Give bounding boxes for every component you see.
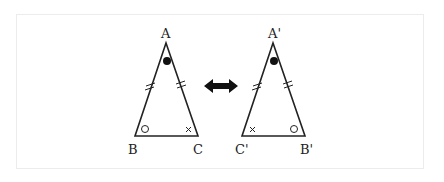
vertex-label-c-prime: C'	[235, 142, 249, 157]
vertex-label-b: B	[128, 142, 138, 157]
angle-a-filled-dot	[163, 57, 171, 65]
angle-c-cross	[186, 127, 191, 132]
vertex-label-a: A	[160, 26, 171, 41]
angle-a2-filled-dot	[270, 57, 278, 65]
vertex-label-b-prime: B'	[300, 142, 313, 157]
triangle-a2c2b2: A' C' B'	[235, 26, 313, 157]
triangle-abc: A B C	[128, 26, 203, 157]
congruent-triangles-diagram: A B C A' C' B'	[0, 0, 444, 182]
double-arrow-icon	[204, 79, 238, 93]
vertex-label-a-prime: A'	[267, 26, 281, 41]
angle-b-circle	[142, 126, 149, 133]
vertex-label-c: C	[193, 142, 203, 157]
angle-b2-circle	[291, 126, 298, 133]
angle-c2-cross	[250, 127, 255, 132]
